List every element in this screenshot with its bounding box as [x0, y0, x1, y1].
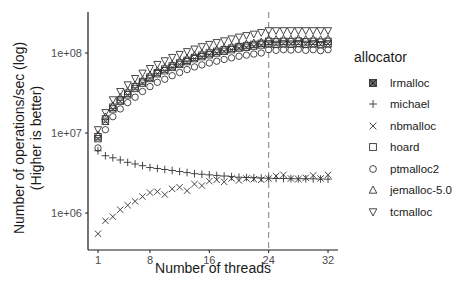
circle-marker [258, 50, 264, 56]
plus-marker [161, 166, 169, 174]
plus-marker [131, 160, 139, 168]
legend-key-icon [364, 205, 382, 219]
circle-marker [243, 52, 249, 58]
x-marker [162, 191, 168, 197]
legend-item-lrmalloc: lrmalloc [354, 72, 457, 94]
plus-marker [369, 100, 377, 108]
plus-marker [102, 152, 110, 160]
plus-marker [124, 159, 132, 167]
square-x-marker [132, 85, 138, 91]
plus-marker [280, 175, 288, 183]
x-marker [169, 186, 175, 192]
legend-key-icon [364, 162, 382, 176]
triangle-down-marker [235, 34, 242, 41]
triangle-down-marker [324, 28, 331, 35]
triangle-down-marker [310, 28, 317, 35]
x-tick-label: 1 [95, 254, 101, 266]
circle-marker [169, 73, 175, 79]
triangle-down-marker [280, 28, 287, 35]
square-marker [236, 43, 242, 49]
x-marker [147, 189, 153, 195]
plus-marker [183, 169, 191, 177]
x-marker [184, 187, 190, 193]
circle-marker [303, 47, 309, 53]
x-marker [110, 213, 116, 219]
x-marker [102, 218, 108, 224]
x-tick-label: 32 [322, 254, 334, 266]
legend-item-jemalloc-5.0: jemalloc-5.0 [354, 180, 457, 202]
plus-marker [116, 156, 124, 164]
x-marker [199, 182, 205, 188]
circle-marker [124, 99, 130, 105]
legend-items: lrmallocmichaelnbmallochoardptmalloc2jem… [354, 72, 457, 223]
x-marker [132, 198, 138, 204]
triangle-down-marker [317, 28, 324, 35]
square-marker [169, 63, 175, 69]
legend-item-ptmalloc2: ptmalloc2 [354, 158, 457, 180]
x-marker [370, 122, 377, 129]
plus-marker [146, 164, 154, 172]
circle-marker [214, 58, 220, 64]
circle-marker [206, 60, 212, 66]
triangle-down-marker [272, 28, 279, 35]
circle-marker [221, 56, 227, 62]
triangle-down-marker [258, 30, 265, 37]
legend-label: ptmalloc2 [390, 163, 439, 175]
plus-marker [257, 174, 265, 182]
plus-marker [228, 173, 236, 181]
plus-marker [213, 172, 221, 180]
x-marker [176, 184, 182, 190]
circle-marker [117, 106, 123, 112]
legend-label: jemalloc-5.0 [390, 184, 452, 196]
legend-key-icon [364, 76, 382, 90]
y-tick-label: 1e+06 [51, 207, 82, 219]
legend-key-icon [364, 97, 382, 111]
circle-marker [102, 126, 108, 132]
plus-marker [109, 154, 117, 162]
legend-key-icon [364, 183, 382, 197]
series-hoard [95, 38, 331, 140]
series-ptmalloc2 [95, 46, 331, 151]
circle-marker [273, 47, 279, 53]
triangle-down-marker [287, 28, 294, 35]
y-axis-ticks: 1e+061e+071e+08 [51, 47, 88, 219]
triangle-up-marker [243, 40, 250, 47]
legend-label: tcmalloc [390, 206, 432, 218]
series-nbmalloc [95, 172, 331, 237]
series-jemalloc-5.0 [94, 35, 331, 138]
legend-label: lrmalloc [390, 77, 430, 89]
legend-item-nbmalloc: nbmalloc [354, 115, 457, 137]
circle-marker [162, 76, 168, 82]
plus-marker [206, 171, 214, 179]
circle-marker [317, 47, 323, 53]
data-points [94, 28, 332, 237]
circle-marker [236, 53, 242, 59]
series-lrmalloc [95, 40, 331, 141]
legend-item-hoard: hoard [354, 137, 457, 159]
series-tcmalloc [94, 28, 331, 134]
plus-marker [324, 175, 332, 183]
circle-marker [147, 83, 153, 89]
plus-marker [309, 175, 317, 183]
x-axis-title: Number of threads [155, 260, 271, 276]
legend-key-icon [364, 140, 382, 154]
circle-marker [176, 69, 182, 75]
x-marker [206, 178, 212, 184]
legend: allocator lrmallocmichaelnbmallochoardpt… [354, 49, 457, 223]
plus-marker [176, 168, 184, 176]
y-axis-title-line-1: Number of operations/sec (log) [11, 42, 27, 234]
triangle-down-marker [369, 209, 377, 216]
x-tick-label: 8 [147, 254, 153, 266]
x-marker [95, 231, 101, 237]
y-tick-label: 1e+07 [51, 127, 82, 139]
triangle-up-marker [369, 186, 377, 193]
legend-label: michael [390, 98, 430, 110]
triangle-up-marker [250, 39, 257, 46]
plus-marker [302, 175, 310, 183]
legend-label: hoard [390, 141, 419, 153]
x-marker [191, 181, 197, 187]
circle-marker [370, 165, 377, 172]
circle-marker [132, 94, 138, 100]
legend-item-tcmalloc: tcmalloc [354, 201, 457, 223]
plus-marker [250, 174, 258, 182]
